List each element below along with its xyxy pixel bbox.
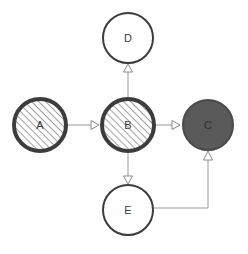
node-a-shape[interactable] <box>14 99 66 151</box>
edge-e-to-c <box>154 151 213 208</box>
node-e[interactable]: E <box>103 185 153 235</box>
graph-svg: A B C D E <box>0 0 248 254</box>
edge-b-to-c <box>156 121 180 130</box>
node-b-shape[interactable] <box>102 99 154 151</box>
edge-a-to-b <box>68 121 99 130</box>
arrowhead-icon <box>204 151 213 160</box>
node-layer: A B C D E <box>14 13 233 235</box>
node-d-shape[interactable] <box>103 13 153 63</box>
edge-b-to-d <box>124 64 133 97</box>
node-d[interactable]: D <box>103 13 153 63</box>
arrowhead-icon <box>172 121 180 130</box>
node-b[interactable]: B <box>102 99 154 151</box>
arrowhead-icon <box>91 121 99 130</box>
arrowhead-icon <box>124 64 133 72</box>
diagram-canvas: A B C D E <box>0 0 248 254</box>
node-c-shape[interactable] <box>183 100 233 150</box>
edge-b-to-e <box>124 153 133 184</box>
node-c[interactable]: C <box>183 100 233 150</box>
node-a[interactable]: A <box>14 99 66 151</box>
arrowhead-icon <box>124 176 133 184</box>
node-e-shape[interactable] <box>103 185 153 235</box>
